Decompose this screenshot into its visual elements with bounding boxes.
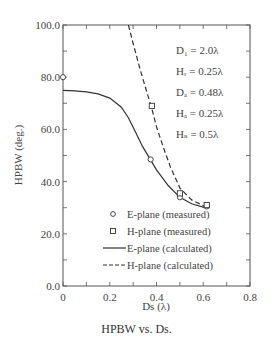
y-tick-label: 100.0: [35, 19, 60, 31]
h-plane-measured-point: [177, 191, 182, 196]
legend-square-icon: [111, 229, 116, 234]
legend-entry: E-plane (measured): [127, 209, 210, 221]
y-tick-label: 60.0: [41, 123, 61, 135]
parameter-annotation: D₁ = 2.0λ: [176, 44, 219, 56]
h-plane-measured-point: [149, 103, 154, 108]
y-tick-label: 80.0: [41, 71, 61, 83]
x-tick-label: 0.2: [103, 291, 117, 303]
parameter-annotation: Hₐ = 0.25λ: [176, 107, 224, 119]
legend-entry: E-plane (calculated): [127, 243, 212, 255]
x-tick-label: 0: [60, 291, 66, 303]
e-plane-measured-point: [148, 157, 153, 162]
legend-entry: H-plane (measured): [127, 226, 211, 238]
y-axis-label: HPBW (deg.): [12, 125, 25, 186]
figure-caption: HPBW vs. Ds.: [0, 322, 273, 337]
legend-entry: H-plane (calculated): [127, 260, 213, 272]
y-tick-label: 0.0: [46, 280, 60, 292]
y-tick-label: 20.0: [41, 228, 61, 240]
parameter-annotation: Hₛ = 0.5λ: [176, 128, 219, 140]
parameter-annotations: D₁ = 2.0λHᵣ = 0.25λDₐ = 0.48λHₐ = 0.25λH…: [176, 44, 224, 140]
x-axis-label: Ds (λ): [142, 300, 170, 313]
h-plane-measured-point: [204, 202, 209, 207]
x-tick-label: 0.8: [243, 291, 257, 303]
x-tick-label: 0.6: [196, 291, 210, 303]
legend: E-plane (measured)H-plane (measured)E-pl…: [103, 209, 213, 272]
e-plane-measured-point: [60, 75, 65, 80]
y-tick-label: 40.0: [41, 176, 61, 188]
parameter-annotation: Dₐ = 0.48λ: [176, 86, 224, 98]
hpbw-chart: 0.020.040.060.080.0100.000.20.40.60.8 D₁…: [0, 0, 273, 320]
legend-circle-icon: [111, 212, 116, 217]
parameter-annotation: Hᵣ = 0.25λ: [176, 65, 223, 77]
